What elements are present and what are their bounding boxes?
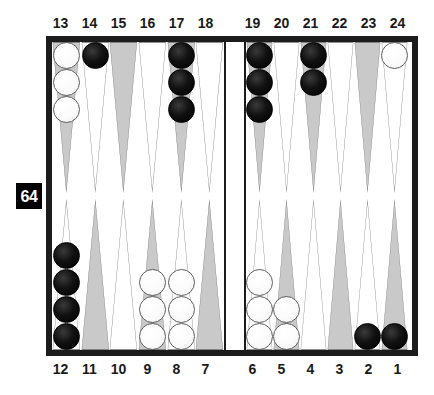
point-triangle-4	[300, 196, 327, 350]
checker-black-point-1[interactable]	[381, 323, 408, 350]
point-5[interactable]	[273, 196, 300, 350]
point-19[interactable]	[246, 42, 273, 196]
checker-stack-6	[246, 269, 273, 350]
point-14[interactable]	[81, 42, 110, 196]
point-label-19: 19	[238, 14, 267, 32]
point-23[interactable]	[354, 42, 381, 196]
point-triangle-23	[354, 42, 381, 196]
point-18[interactable]	[195, 42, 224, 196]
point-2[interactable]	[354, 196, 381, 350]
checker-stack-1	[381, 323, 408, 350]
checker-stack-14	[81, 42, 110, 69]
point-21[interactable]	[300, 42, 327, 196]
point-label-7: 7	[191, 360, 220, 378]
point-7[interactable]	[195, 196, 224, 350]
checker-black-point-12[interactable]	[53, 296, 80, 323]
point-triangle-7	[195, 196, 224, 350]
point-9[interactable]	[138, 196, 167, 350]
point-22[interactable]	[327, 42, 354, 196]
quadrant-bottom-right	[246, 196, 408, 350]
point-triangle-18	[195, 42, 224, 196]
checker-white-point-5[interactable]	[273, 296, 300, 323]
point-label-24: 24	[383, 14, 412, 32]
checker-black-point-17[interactable]	[168, 42, 195, 69]
playfield	[52, 42, 412, 350]
point-label-14: 14	[75, 14, 104, 32]
checker-stack-13	[52, 42, 81, 123]
checker-white-point-6[interactable]	[246, 323, 273, 350]
backgammon-board: 64 131415161718192021222324 121110987654…	[0, 0, 434, 395]
quadrant-top-right	[246, 42, 408, 196]
checker-black-point-21[interactable]	[300, 69, 327, 96]
point-15[interactable]	[109, 42, 138, 196]
doubling-cube[interactable]: 64	[16, 183, 42, 209]
checker-stack-19	[246, 42, 273, 123]
checker-white-point-9[interactable]	[139, 296, 166, 323]
checker-black-point-19[interactable]	[246, 42, 273, 69]
board-half-right	[244, 42, 408, 350]
point-label-gap	[220, 360, 238, 378]
point-label-3: 3	[325, 360, 354, 378]
point-label-9: 9	[133, 360, 162, 378]
point-3[interactable]	[327, 196, 354, 350]
point-1[interactable]	[381, 196, 408, 350]
point-triangle-3	[327, 196, 354, 350]
board-half-left	[52, 42, 226, 350]
point-16[interactable]	[138, 42, 167, 196]
center-bar[interactable]	[226, 42, 244, 350]
checker-stack-24	[381, 42, 408, 69]
checker-white-point-13[interactable]	[53, 69, 80, 96]
point-10[interactable]	[109, 196, 138, 350]
checker-stack-17	[167, 42, 196, 123]
point-12[interactable]	[52, 196, 81, 350]
point-triangle-11	[81, 196, 110, 350]
checker-black-point-19[interactable]	[246, 69, 273, 96]
checker-white-point-9[interactable]	[139, 323, 166, 350]
point-label-20: 20	[267, 14, 296, 32]
point-labels-top: 131415161718192021222324	[46, 14, 418, 32]
point-label-2: 2	[354, 360, 383, 378]
point-label-11: 11	[75, 360, 104, 378]
checker-stack-8	[167, 269, 196, 350]
point-labels-bottom: 121110987654321	[46, 360, 418, 378]
checker-black-point-12[interactable]	[53, 323, 80, 350]
point-triangle-15	[109, 42, 138, 196]
checker-white-point-13[interactable]	[53, 42, 80, 69]
checker-white-point-13[interactable]	[53, 96, 80, 123]
checker-black-point-21[interactable]	[300, 42, 327, 69]
point-4[interactable]	[300, 196, 327, 350]
point-label-22: 22	[325, 14, 354, 32]
checker-black-point-2[interactable]	[354, 323, 381, 350]
checker-black-point-17[interactable]	[168, 96, 195, 123]
checker-black-point-19[interactable]	[246, 96, 273, 123]
point-label-17: 17	[162, 14, 191, 32]
point-label-12: 12	[46, 360, 75, 378]
checker-white-point-6[interactable]	[246, 296, 273, 323]
checker-white-point-5[interactable]	[273, 323, 300, 350]
point-label-1: 1	[383, 360, 412, 378]
checker-white-point-8[interactable]	[168, 296, 195, 323]
quadrant-bottom-left	[52, 196, 224, 350]
checker-white-point-9[interactable]	[139, 269, 166, 296]
point-17[interactable]	[167, 42, 196, 196]
checker-white-point-8[interactable]	[168, 269, 195, 296]
checker-stack-2	[354, 323, 381, 350]
checker-white-point-6[interactable]	[246, 269, 273, 296]
point-13[interactable]	[52, 42, 81, 196]
point-triangle-20	[273, 42, 300, 196]
point-8[interactable]	[167, 196, 196, 350]
point-6[interactable]	[246, 196, 273, 350]
checker-white-point-24[interactable]	[381, 42, 408, 69]
checker-black-point-12[interactable]	[53, 242, 80, 269]
point-24[interactable]	[381, 42, 408, 196]
point-20[interactable]	[273, 42, 300, 196]
checker-black-point-17[interactable]	[168, 69, 195, 96]
checker-black-point-12[interactable]	[53, 269, 80, 296]
checker-white-point-8[interactable]	[168, 323, 195, 350]
point-label-6: 6	[238, 360, 267, 378]
point-label-gap	[220, 14, 238, 32]
point-label-23: 23	[354, 14, 383, 32]
point-label-16: 16	[133, 14, 162, 32]
point-11[interactable]	[81, 196, 110, 350]
checker-black-point-14[interactable]	[82, 42, 109, 69]
